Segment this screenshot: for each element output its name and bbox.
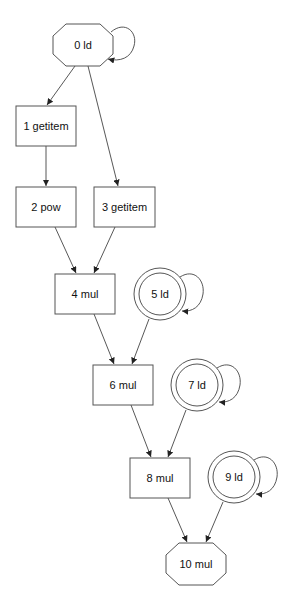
node-label: 8 mul (147, 472, 174, 484)
edge-9-10 (206, 502, 223, 542)
edge-0-3 (88, 66, 118, 186)
node-7-ld[interactable]: 7 ld (171, 359, 223, 411)
node-3-getitem[interactable]: 3 getitem (94, 187, 155, 227)
dataflow-graph: 0 ld 1 getitem 2 pow 3 getitem 4 mul 5 l… (0, 0, 297, 602)
edge-6-8 (131, 405, 151, 457)
node-label: 2 pow (31, 201, 60, 213)
node-label: 0 ld (74, 39, 92, 51)
edge-3-4 (94, 227, 115, 273)
node-4-mul[interactable]: 4 mul (55, 274, 115, 314)
edge-8-10 (168, 498, 187, 542)
node-0-ld[interactable]: 0 ld (53, 24, 113, 66)
node-label: 3 getitem (102, 201, 147, 213)
node-2-pow[interactable]: 2 pow (16, 187, 76, 227)
node-6-mul[interactable]: 6 mul (93, 365, 153, 405)
node-label: 9 ld (225, 471, 243, 483)
edge-7-8 (168, 410, 186, 457)
node-10-mul[interactable]: 10 mul (166, 543, 226, 585)
edge-2-4 (55, 227, 76, 273)
node-label: 1 getitem (23, 120, 68, 132)
node-label: 5 ld (151, 288, 169, 300)
edge-0-1 (47, 66, 75, 105)
node-8-mul[interactable]: 8 mul (130, 458, 190, 498)
node-label: 4 mul (72, 288, 99, 300)
node-9-ld[interactable]: 9 ld (208, 451, 260, 503)
node-label: 6 mul (110, 379, 137, 391)
edge-5-6 (132, 319, 149, 364)
edge-4-6 (94, 314, 114, 364)
node-5-ld[interactable]: 5 ld (134, 268, 186, 320)
node-label: 7 ld (188, 379, 206, 391)
nodes: 0 ld 1 getitem 2 pow 3 getitem 4 mul 5 l… (16, 24, 260, 585)
node-1-getitem[interactable]: 1 getitem (16, 106, 76, 146)
node-label: 10 mul (179, 558, 212, 570)
